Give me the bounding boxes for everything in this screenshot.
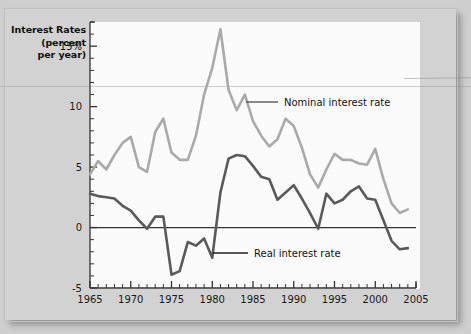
x-tick-label: 2005 (403, 294, 428, 305)
series-line-nominal (90, 29, 408, 213)
x-tick-label: 1965 (77, 294, 102, 305)
annotation-group: Nominal interest rateReal interest rate (213, 97, 390, 259)
x-tick-label: 2000 (363, 294, 388, 305)
chart-figure: Interest Rates (percent per year) -50510… (0, 0, 471, 334)
y-tick-label: 0 (76, 222, 82, 233)
series-line-real (90, 155, 408, 275)
y-tick-label: 15% (60, 41, 82, 52)
x-tick-label: 1980 (200, 294, 225, 305)
axes-group: -5051015%1965197019751980198519901995200… (60, 22, 429, 305)
y-tick-label: 10 (69, 101, 82, 112)
x-tick-label: 1975 (159, 294, 184, 305)
annotation-real-label: Real interest rate (254, 248, 341, 259)
annotation-nominal-label: Nominal interest rate (284, 97, 390, 108)
series-group (90, 29, 408, 274)
y-tick-label: -5 (72, 283, 82, 294)
x-tick-label: 1985 (240, 294, 265, 305)
x-tick-label: 1995 (322, 294, 347, 305)
y-tick-label: 5 (76, 162, 82, 173)
x-tick-label: 1990 (281, 294, 306, 305)
chart-svg: -5051015%1965197019751980198519901995200… (0, 0, 471, 334)
x-tick-label: 1970 (118, 294, 143, 305)
